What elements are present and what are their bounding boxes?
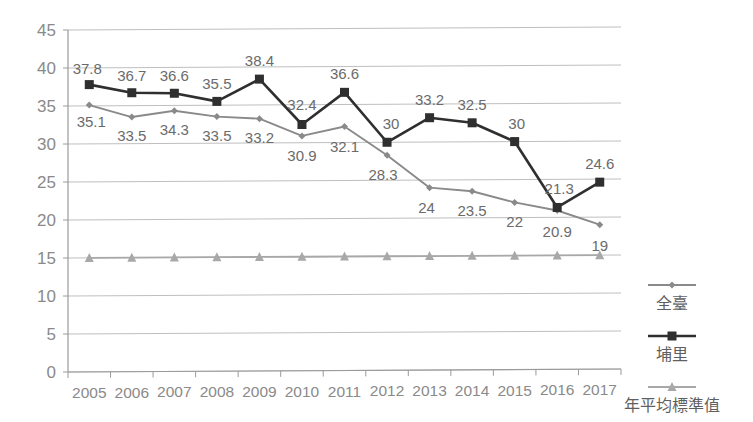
data-label: 30 (508, 115, 525, 132)
data-point-marker-diamond (213, 113, 220, 120)
x-axis-line (68, 369, 621, 372)
data-point-marker-square (85, 80, 94, 89)
data-label: 21.3 (545, 180, 574, 197)
x-axis-tick-label: 2006 (115, 384, 149, 401)
chart-legend: 全臺埔里年平均標準值 (624, 282, 720, 415)
gridline (68, 103, 621, 106)
y-axis-tick-label: 25 (37, 173, 56, 192)
data-label: 38.4 (245, 52, 274, 69)
data-label: 36.7 (117, 67, 146, 84)
y-axis-tick-labels: 051015202530354045 (37, 21, 56, 382)
data-point-marker-diamond (669, 282, 676, 289)
data-point-marker-diamond (128, 114, 135, 121)
data-label: 33.2 (415, 91, 444, 108)
y-axis-tick-label: 20 (37, 211, 56, 230)
data-label: 34.3 (160, 121, 189, 138)
data-point-marker-diamond (171, 107, 178, 114)
data-label: 19 (591, 237, 608, 254)
data-point-marker-square (510, 137, 519, 146)
data-point-marker-diamond (511, 199, 518, 206)
data-point-marker-diamond (86, 102, 93, 109)
data-label: 32.1 (330, 138, 359, 155)
gridline (68, 331, 621, 334)
data-point-marker-square (468, 118, 477, 127)
data-label: 22 (506, 213, 523, 230)
x-axis-tick-label: 2017 (582, 381, 616, 398)
data-series (85, 75, 604, 262)
legend-label: 全臺 (656, 295, 688, 312)
legend-item-2[interactable]: 埔里 (648, 332, 696, 364)
y-axis-tick-label: 15 (37, 249, 56, 268)
data-label: 33.5 (202, 127, 231, 144)
y-axis-tick-label: 40 (37, 59, 56, 78)
y-axis-tick-label: 35 (37, 97, 56, 116)
x-axis-tick-labels: 2005200620072008200920102011201220132014… (72, 381, 617, 401)
x-axis-tick-label: 2015 (497, 382, 531, 399)
gridline (68, 217, 621, 220)
data-point-marker-square (340, 88, 349, 97)
data-point-marker-square (127, 88, 136, 97)
y-axis-tick-label: 5 (47, 325, 56, 344)
x-axis-tick-label: 2016 (540, 381, 574, 398)
data-point-marker-square (595, 178, 604, 187)
data-label: 20.9 (543, 223, 572, 240)
line-chart: 051015202530354045 200520062007200820092… (0, 0, 753, 422)
data-label: 36.6 (330, 65, 359, 82)
data-point-marker-square (425, 113, 434, 122)
y-axis-tick-label: 10 (37, 287, 56, 306)
x-axis-tick-label: 2008 (200, 383, 234, 400)
data-point-marker-diamond (596, 221, 603, 228)
data-label: 35.5 (202, 75, 231, 92)
data-point-marker-square (668, 332, 677, 341)
x-axis-tick-label: 2014 (455, 382, 490, 399)
data-label: 24 (418, 199, 435, 216)
data-label: 36.6 (160, 67, 189, 84)
x-axis-tick-label: 2013 (412, 382, 446, 399)
x-axis-tick-label: 2012 (370, 382, 404, 399)
data-point-marker-square (383, 138, 392, 147)
y-axis-tick-label: 45 (37, 21, 56, 40)
x-axis-tick-label: 2011 (328, 383, 361, 400)
x-axis-tick-label: 2005 (72, 384, 106, 401)
data-label: 33.2 (245, 129, 274, 146)
gridline (68, 293, 621, 296)
data-label: 32.5 (458, 96, 487, 113)
data-label: 23.5 (458, 202, 487, 219)
data-point-marker-square (553, 203, 562, 212)
data-label: 24.6 (585, 155, 614, 172)
data-label: 37.8 (73, 60, 102, 77)
series-3 (85, 250, 604, 262)
data-label: 30.9 (287, 147, 316, 164)
legend-item-1[interactable]: 全臺 (648, 282, 696, 313)
data-labels: 35.133.534.333.533.230.932.128.32423.522… (73, 52, 615, 254)
data-label: 33.5 (117, 127, 146, 144)
legend-item-3[interactable]: 年平均標準值 (624, 382, 720, 414)
gridline (68, 27, 621, 30)
data-point-marker-diamond (469, 188, 476, 195)
data-point-marker-square (170, 89, 179, 98)
data-label: 35.1 (77, 113, 106, 130)
data-point-marker-square (297, 120, 306, 129)
data-point-marker-square (212, 97, 221, 106)
data-label: 28.3 (368, 166, 397, 183)
y-axis-tick-label: 0 (47, 363, 56, 382)
data-point-marker-square (255, 75, 264, 84)
chart-container: 051015202530354045 200520062007200820092… (0, 0, 753, 422)
x-axis-tick-label: 2007 (157, 383, 191, 400)
data-point-marker-diamond (256, 115, 263, 122)
legend-label: 埔里 (656, 346, 688, 363)
x-axis-tick-label: 2009 (242, 383, 276, 400)
legend-label: 年平均標準值 (624, 397, 720, 414)
data-point-marker-diamond (298, 132, 305, 139)
data-label: 32.4 (287, 96, 316, 113)
y-axis-tick-label: 30 (37, 135, 56, 154)
data-label: 30 (383, 115, 400, 132)
x-axis-tick-label: 2010 (285, 383, 320, 400)
